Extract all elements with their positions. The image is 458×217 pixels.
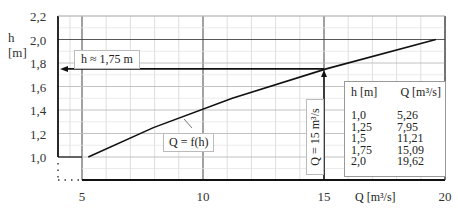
svg-text:1,6: 1,6 <box>30 80 47 95</box>
cell-q: 19,62 <box>397 156 424 168</box>
y-axis-label: h [m] <box>8 30 27 60</box>
svg-text:1,2: 1,2 <box>30 127 46 142</box>
curve-label: Q = f(h) <box>163 133 214 152</box>
table-row: 2,019,62 <box>351 156 439 168</box>
readout-guides <box>60 66 327 180</box>
svg-text:2,2: 2,2 <box>30 9 46 24</box>
header-q: Q [m³/s] <box>400 87 441 99</box>
x-axis-label: Q [m³/s] <box>355 190 396 205</box>
svg-text:2,0: 2,0 <box>30 33 46 48</box>
svg-text:1,8: 1,8 <box>30 56 46 71</box>
data-table: h [m] Q [m³/s] 1,05,26 1,257,95 1,511,21… <box>344 81 446 177</box>
table-rows: 1,05,26 1,257,95 1,511,21 1,7515,09 2,01… <box>351 110 439 168</box>
cell-h: 2,0 <box>351 156 397 168</box>
h-readout-label: h ≈ 1,75 m <box>74 50 140 69</box>
y-axis-label-line1: h <box>8 30 27 45</box>
svg-text:5: 5 <box>79 189 86 204</box>
svg-text:20: 20 <box>439 189 452 204</box>
svg-text:15: 15 <box>318 189 331 204</box>
y-axis-label-line2: [m] <box>8 45 27 60</box>
table-header: h [m] Q [m³/s] <box>351 87 441 99</box>
svg-text:1,0: 1,0 <box>30 150 46 165</box>
q-readout-label: Q = 15 m³/s <box>306 99 324 175</box>
q-readout-text: Q = 15 m³/s <box>308 108 323 165</box>
svg-text:1,4: 1,4 <box>30 103 47 118</box>
svg-text:10: 10 <box>197 189 210 204</box>
header-h: h [m] <box>351 87 377 99</box>
